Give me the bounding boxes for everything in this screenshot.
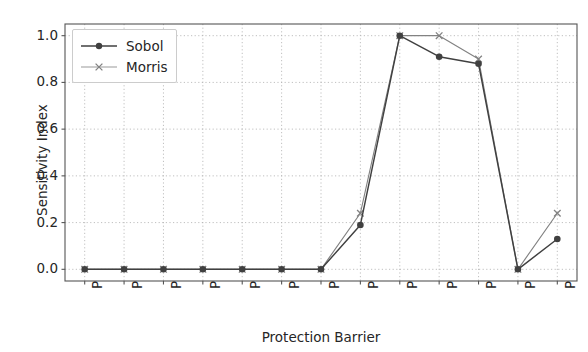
data-point-marker xyxy=(121,266,128,273)
data-point-marker xyxy=(200,266,207,273)
data-point-marker xyxy=(475,60,482,67)
data-point-marker xyxy=(396,32,403,39)
data-point-marker xyxy=(436,53,443,60)
data-point-marker xyxy=(357,222,364,229)
data-point-marker xyxy=(239,266,246,273)
legend-entry-sobol: Sobol xyxy=(79,35,168,56)
legend-label-morris: Morris xyxy=(126,59,168,75)
legend-label-sobol: Sobol xyxy=(126,38,163,54)
sobol-line-marker-icon xyxy=(79,39,119,53)
data-point-marker xyxy=(278,266,285,273)
legend-entry-morris: Morris xyxy=(79,56,168,77)
chart-legend: Sobol Morris xyxy=(72,29,177,83)
data-point-marker xyxy=(318,266,325,273)
morris-line-marker-icon xyxy=(79,60,119,74)
data-point-marker xyxy=(554,236,561,243)
data-point-marker xyxy=(515,266,522,273)
data-point-marker xyxy=(160,266,167,273)
data-point-marker xyxy=(81,266,88,273)
chart-figure: Sensitivity Index Protection Barrier 0.0… xyxy=(0,0,588,352)
